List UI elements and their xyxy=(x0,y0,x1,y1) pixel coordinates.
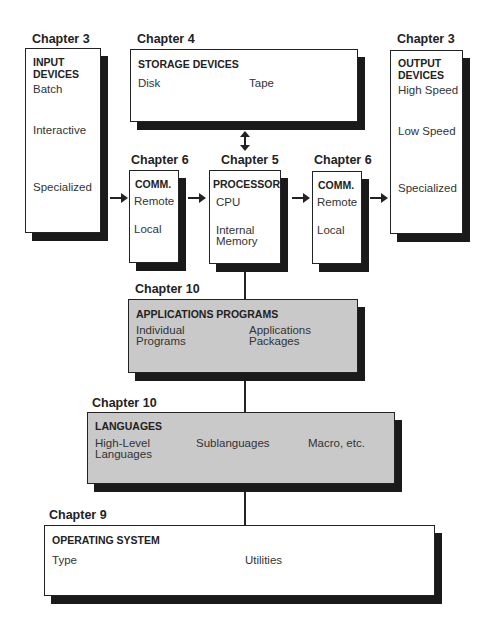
comm-out-item-remote: Remote xyxy=(317,197,357,208)
comm-in-box: COMM. Remote Local xyxy=(129,170,179,263)
output-item-high-speed: High Speed xyxy=(398,85,458,96)
comm-in-title: COMM. xyxy=(135,178,171,190)
memory-line: Memory xyxy=(216,235,258,247)
input-item-specialized: Specialized xyxy=(33,182,92,193)
processor-box: PROCESSOR CPU Internal Memory xyxy=(209,170,281,264)
operating-system-box: OPERATING SYSTEM Type Utilities xyxy=(44,525,435,596)
languages-item-high-level: High-Level Languages xyxy=(95,438,152,460)
arrow-processor-to-comm xyxy=(292,193,310,203)
storage-processor-double-arrow xyxy=(240,131,250,151)
input-devices-box: INPUT DEVICES Batch Interactive Speciali… xyxy=(25,48,101,233)
applications-title: APPLICATIONS PROGRAMS xyxy=(136,308,278,320)
output-item-low-speed: Low Speed xyxy=(398,126,456,137)
output-devices-box: OUTPUT DEVICES High Speed Low Speed Spec… xyxy=(390,50,463,234)
applications-chapter-label: Chapter 10 xyxy=(135,282,200,296)
output-item-specialized: Specialized xyxy=(398,183,457,194)
processor-title: PROCESSOR xyxy=(213,178,280,190)
storage-chapter-label: Chapter 4 xyxy=(137,32,195,46)
processor-chapter-label: Chapter 5 xyxy=(221,153,279,167)
processor-item-internal-memory: Internal Memory xyxy=(216,225,258,247)
input-title-line1: INPUT xyxy=(33,56,65,68)
languages-box: LANGUAGES High-Level Languages Sublangua… xyxy=(87,412,395,484)
input-chapter-label: Chapter 3 xyxy=(32,32,90,46)
output-title-line2: DEVICES xyxy=(398,69,444,81)
storage-devices-title: STORAGE DEVICES xyxy=(138,58,239,70)
os-item-type: Type xyxy=(52,555,77,566)
comm-out-title: COMM. xyxy=(318,179,354,191)
languages-item-macro: Macro, etc. xyxy=(308,438,365,449)
input-title-line2: DEVICES xyxy=(33,68,79,80)
storage-item-tape: Tape xyxy=(249,78,274,89)
comm-out-box: COMM. Remote Local xyxy=(312,171,362,264)
languages-title: LANGUAGES xyxy=(95,420,162,432)
input-item-interactive: Interactive xyxy=(33,125,86,136)
connector-languages-os xyxy=(244,491,246,526)
os-title: OPERATING SYSTEM xyxy=(52,534,160,546)
output-devices-title: OUTPUT DEVICES xyxy=(398,57,444,81)
programs-line: Programs xyxy=(136,335,186,347)
processor-item-cpu: CPU xyxy=(216,197,240,208)
input-devices-title: INPUT DEVICES xyxy=(33,56,79,80)
arrow-input-to-comm xyxy=(110,193,128,203)
output-title-line1: OUTPUT xyxy=(398,57,441,69)
comm-out-item-local: Local xyxy=(317,225,345,236)
languages-line: Languages xyxy=(95,448,152,460)
storage-item-disk: Disk xyxy=(138,78,160,89)
os-item-utilities: Utilities xyxy=(245,555,282,566)
arrow-comm-to-output xyxy=(370,193,388,203)
comm-in-item-local: Local xyxy=(134,224,162,235)
applications-item-individual-programs: Individual Programs xyxy=(136,325,186,347)
languages-chapter-label: Chapter 10 xyxy=(92,396,157,410)
os-chapter-label: Chapter 9 xyxy=(49,508,107,522)
applications-item-applications-packages: Applications Packages xyxy=(249,325,311,347)
comm-out-chapter-label: Chapter 6 xyxy=(314,153,372,167)
output-chapter-label: Chapter 3 xyxy=(397,32,455,46)
arrow-comm-to-processor xyxy=(188,193,206,203)
input-item-batch: Batch xyxy=(33,84,62,95)
packages-line: Packages xyxy=(249,335,300,347)
storage-devices-box: STORAGE DEVICES Disk Tape xyxy=(130,49,358,122)
languages-item-sublanguages: Sublanguages xyxy=(196,438,270,449)
connector-applications-languages xyxy=(244,380,246,413)
comm-in-item-remote: Remote xyxy=(134,196,174,207)
applications-programs-box: APPLICATIONS PROGRAMS Individual Program… xyxy=(128,299,358,373)
connector-processor-applications xyxy=(244,271,246,299)
comm-in-chapter-label: Chapter 6 xyxy=(131,153,189,167)
